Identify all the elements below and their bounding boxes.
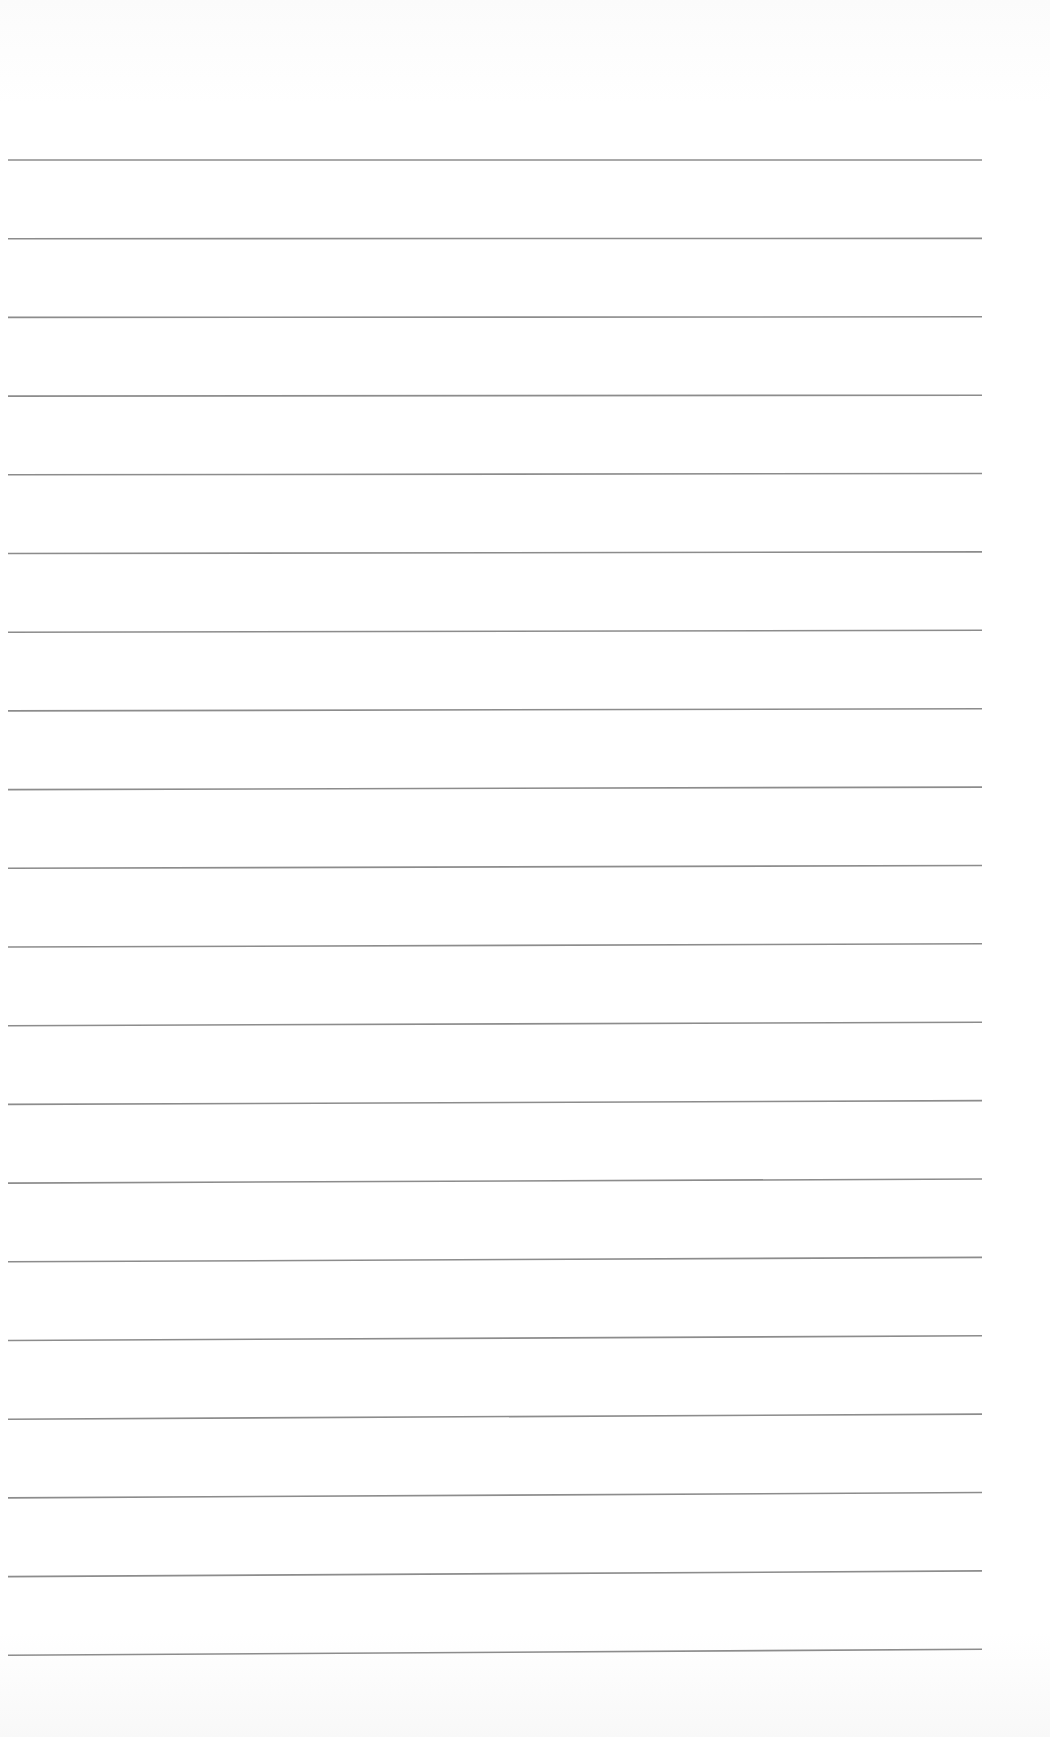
- ruled-line: [8, 1179, 982, 1183]
- ruled-line: [8, 474, 982, 475]
- ruled-line: [8, 1336, 982, 1341]
- ruled-line: [8, 866, 982, 869]
- ruled-line: [8, 395, 982, 396]
- ruled-line: [8, 1493, 982, 1498]
- ruled-line: [8, 944, 982, 947]
- ruled-line: [8, 1649, 982, 1655]
- ruled-line: [8, 1571, 982, 1577]
- lined-paper-page: [0, 0, 1050, 1737]
- ruled-line: [8, 1022, 982, 1025]
- ruled-line: [8, 1414, 982, 1419]
- ruled-lines: [0, 0, 1050, 1737]
- ruled-line: [8, 630, 982, 632]
- ruled-line: [8, 317, 982, 318]
- ruled-line: [8, 709, 982, 711]
- ruled-line: [8, 1101, 982, 1105]
- ruled-line: [8, 552, 982, 554]
- ruled-line: [8, 1257, 982, 1261]
- ruled-line: [8, 787, 982, 790]
